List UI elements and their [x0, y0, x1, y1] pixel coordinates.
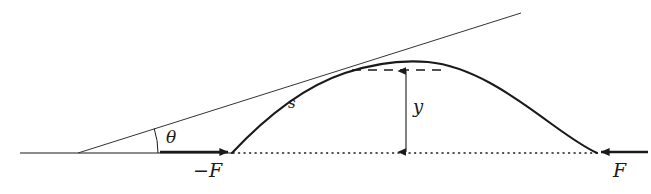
- force-right-label: F: [613, 161, 626, 180]
- physics-diagram-figure: θ s y −F F: [0, 0, 651, 194]
- theta-angle-label: θ: [166, 129, 176, 146]
- force-left-label: −F: [193, 161, 222, 180]
- tangent-line: [78, 13, 521, 153]
- theta-angle-arc: [154, 129, 158, 153]
- arc-length-label: s: [288, 96, 296, 111]
- height-label: y: [413, 98, 423, 116]
- diagram-canvas: [0, 0, 651, 194]
